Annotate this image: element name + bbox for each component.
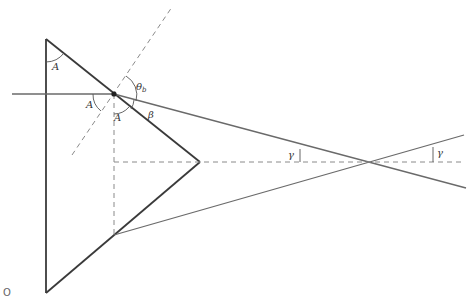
prism — [46, 39, 200, 293]
theta-b-label: θb — [136, 81, 147, 94]
angle-label-a-top: A — [51, 61, 59, 72]
output-rays — [114, 94, 466, 235]
prism-diagram: A A A θb β γ γ O — [0, 0, 475, 304]
beta-label: β — [147, 109, 154, 120]
gamma-label-left: γ — [288, 149, 294, 160]
gamma-label-right: γ — [437, 147, 443, 158]
diagram-svg: A A A θb β γ γ O — [0, 0, 475, 304]
construction-lines — [72, 7, 462, 235]
angle-label-a-bottom: A — [113, 112, 121, 123]
incidence-point — [111, 91, 116, 96]
angle-label-a-left: A — [85, 99, 93, 110]
origin-label: O — [3, 287, 11, 298]
